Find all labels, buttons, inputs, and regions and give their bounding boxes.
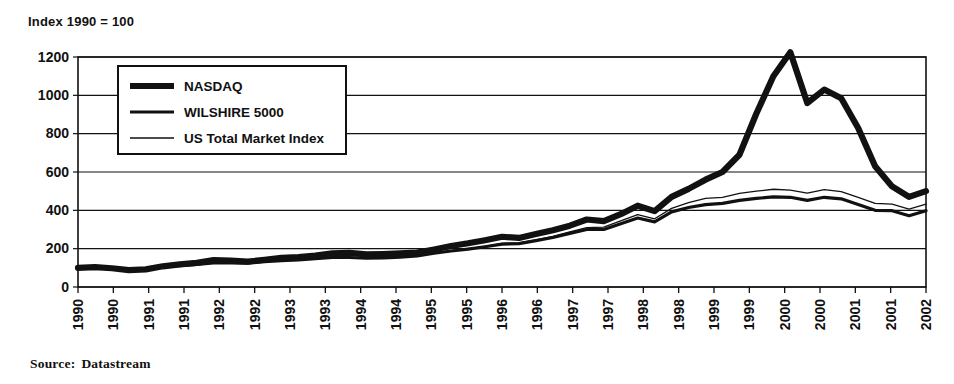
- x-tick-label: 1999: [706, 299, 722, 330]
- x-tick-label: 1990: [105, 299, 121, 330]
- x-tick-label: 1996: [494, 299, 510, 330]
- x-tick-label: 1994: [353, 299, 369, 330]
- y-tick-label: 800: [46, 125, 70, 141]
- x-tick-label: 2001: [883, 299, 899, 330]
- y-tick-label: 0: [61, 279, 69, 295]
- series-line-us-total-market-index: [78, 189, 926, 270]
- chart-plot-area: 0200400600800100012001990199019911991199…: [0, 0, 954, 384]
- x-tick-label: 1997: [600, 299, 616, 330]
- x-tick-label: 1992: [247, 299, 263, 330]
- y-tick-label: 400: [46, 202, 70, 218]
- x-tick-label: 2001: [847, 299, 863, 330]
- chart-legend: NASDAQWILSHIRE 5000US Total Market Index: [118, 66, 346, 154]
- x-tick-label: 1997: [565, 299, 581, 330]
- source-note: Source:Datastream: [30, 356, 151, 372]
- x-tick-label: 1998: [671, 299, 687, 330]
- x-tick-label: 1995: [423, 299, 439, 330]
- legend-label-wilshire-5000: WILSHIRE 5000: [184, 105, 284, 120]
- legend-label-nasdaq: NASDAQ: [184, 79, 243, 94]
- x-tick-label: 1996: [529, 299, 545, 330]
- x-tick-label: 1990: [70, 299, 86, 330]
- chart-figure: Index 1990 = 100 02004006008001000120019…: [0, 0, 954, 384]
- x-tick-label: 1999: [741, 299, 757, 330]
- x-tick-label: 2000: [777, 299, 793, 330]
- x-tick-label: 1995: [459, 299, 475, 330]
- source-value: Datastream: [81, 356, 150, 371]
- x-tick-label: 1994: [388, 299, 404, 330]
- x-tick-label: 2000: [812, 299, 828, 330]
- x-tick-label: 1993: [317, 299, 333, 330]
- x-tick-label: 1991: [141, 299, 157, 330]
- source-label: Source:: [30, 356, 75, 371]
- y-tick-label: 1000: [38, 87, 69, 103]
- y-tick-label: 600: [46, 164, 70, 180]
- x-tick-label: 1991: [176, 299, 192, 330]
- y-tick-label: 200: [46, 240, 70, 256]
- x-tick-label: 1992: [211, 299, 227, 330]
- x-axis: 1990199019911991199219921993199319941994…: [70, 287, 934, 330]
- y-tick-label: 1200: [38, 49, 69, 65]
- x-tick-label: 1998: [635, 299, 651, 330]
- x-tick-label: 2002: [918, 299, 934, 330]
- x-tick-label: 1993: [282, 299, 298, 330]
- legend-label-us-total-market-index: US Total Market Index: [184, 131, 325, 146]
